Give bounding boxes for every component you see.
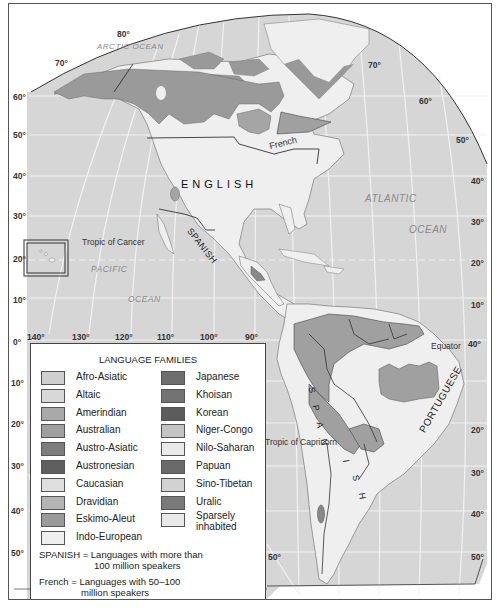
- lat-right-40: 40°: [471, 176, 484, 186]
- legend-note-french-2: million speakers: [81, 588, 149, 598]
- lat-left-20: 20°: [13, 254, 26, 264]
- lat-left-60: 60°: [13, 92, 26, 102]
- lat-left-s20: 20°: [11, 419, 24, 429]
- lon-110: 110°: [157, 332, 174, 342]
- tropic-of-cancer-label: Tropic of Cancer: [82, 237, 145, 247]
- lat-left-s50: 50°: [11, 548, 24, 558]
- equator-label: Equator: [431, 341, 461, 351]
- map-frame: ARCTIC OCEAN ATLANTIC OCEAN PACIFIC OCEA…: [8, 3, 492, 600]
- pacific-ocean-label-1: PACIFIC: [91, 264, 127, 274]
- lat-left-30: 30°: [13, 211, 26, 221]
- lat-right-20: 20°: [471, 258, 484, 268]
- lat-right-s50: 50°: [471, 552, 484, 562]
- lat-left-50: 50°: [13, 130, 26, 140]
- lat-right-30: 30°: [471, 217, 484, 227]
- lat-south-50-inner: 50°: [268, 552, 281, 562]
- swatch-sparsely-inhabited: [161, 513, 185, 527]
- swatch-austronesian: [41, 460, 65, 474]
- english-label: ENGLISH: [181, 178, 257, 190]
- legend: LANGUAGE FAMILIES Afro-Asiatic Altaic Am…: [30, 343, 266, 600]
- swatch-australian: [41, 424, 65, 438]
- lon-40: 40°: [468, 339, 481, 349]
- legend-note-french-1: French = Languages with 50–100: [39, 577, 180, 587]
- swatch-niger-congo: [161, 424, 185, 438]
- lon-120: 120°: [115, 332, 133, 342]
- tropic-of-capricorn-label: Tropic of Capricorn: [265, 437, 337, 447]
- swatch-eskimo-aleut: [41, 513, 65, 527]
- swatch-austro-asiatic: [41, 442, 65, 456]
- swatch-amerindian: [41, 407, 65, 421]
- swatch-sino-tibetan: [161, 478, 185, 492]
- swatch-afro-asiatic: [41, 371, 65, 385]
- swatch-khoisan: [161, 389, 185, 403]
- lat-right-s40: 40°: [471, 509, 484, 519]
- lat-right-60: 60°: [419, 96, 432, 106]
- swatch-papuan: [161, 460, 185, 474]
- swatch-dravidian: [41, 496, 65, 510]
- lat-left-40: 40°: [13, 171, 26, 181]
- lat-right-10: 10°: [471, 300, 484, 310]
- pacific-ocean-label-2: OCEAN: [128, 294, 161, 304]
- lat-right-s30: 30°: [471, 468, 484, 478]
- lon-140: 140°: [27, 332, 45, 342]
- lon-90: 90°: [245, 332, 258, 342]
- swatch-indo-european: [41, 531, 65, 545]
- atlantic-ocean-label-2: OCEAN: [409, 224, 447, 235]
- atlantic-ocean-label-1: ATLANTIC: [365, 193, 417, 204]
- lat-right-s20: 20°: [471, 425, 484, 435]
- lon-100: 100°: [200, 332, 218, 342]
- swatch-korean: [161, 407, 185, 421]
- arctic-ocean-label: ARCTIC OCEAN: [97, 42, 163, 51]
- swatch-uralic: [161, 496, 185, 510]
- lon-130: 130°: [72, 332, 90, 342]
- lat-left-70: 70°: [55, 58, 68, 68]
- lat-left-0: 0°: [13, 337, 21, 347]
- legend-note-spanish-2: 100 million speakers: [94, 561, 181, 571]
- lat-right-70: 70°: [368, 60, 381, 70]
- lat-left-s10: 10°: [11, 378, 24, 388]
- legend-title: LANGUAGE FAMILIES: [31, 354, 265, 365]
- swatch-altaic: [41, 389, 65, 403]
- swatch-nilo-saharan: [161, 442, 185, 456]
- lat-80-label: 80°: [117, 29, 130, 39]
- legend-note-spanish-1: SPANISH = Languages with more than: [39, 550, 203, 560]
- lat-left-10: 10°: [13, 295, 26, 305]
- lat-left-s40: 40°: [11, 506, 24, 516]
- swatch-caucasian: [41, 478, 65, 492]
- lat-right-50: 50°: [456, 135, 469, 145]
- swatch-japanese: [161, 371, 185, 385]
- lat-left-s30: 30°: [11, 461, 24, 471]
